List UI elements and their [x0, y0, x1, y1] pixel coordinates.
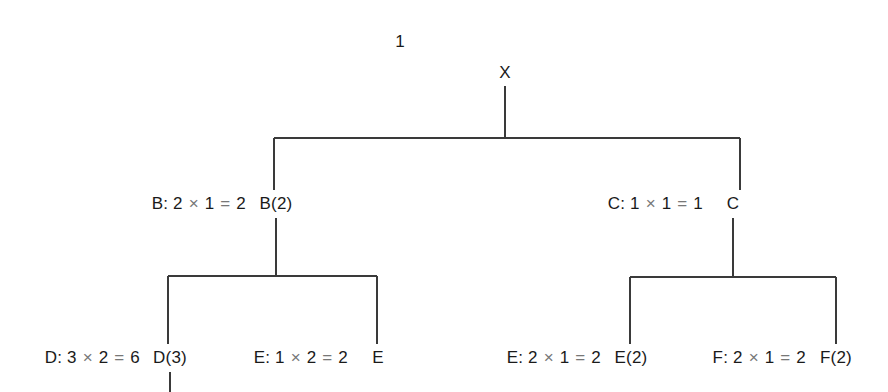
node-b: B(2)	[260, 194, 293, 214]
annotation-f: F: 2 × 1 = 2	[713, 348, 806, 368]
corner-annotation: 1	[395, 32, 404, 52]
node-c: C	[727, 194, 739, 214]
node-e-left: E	[372, 348, 384, 368]
diagram-canvas: 1 X B(2) C D(3) E E(2) F(2) B: 2 × 1 = 2…	[0, 0, 888, 392]
annotation-c: C: 1 × 1 = 1	[608, 194, 703, 214]
node-e-right: E(2)	[615, 348, 648, 368]
annotation-e-left: E: 1 × 2 = 2	[254, 348, 348, 368]
annotation-b: B: 2 × 1 = 2	[152, 194, 246, 214]
node-d: D(3)	[153, 348, 187, 368]
annotation-e-right: E: 2 × 1 = 2	[507, 348, 601, 368]
node-x: X	[499, 63, 511, 83]
annotation-d: D: 3 × 2 = 6	[45, 348, 140, 368]
tree-edges	[0, 0, 888, 392]
node-f: F(2)	[820, 348, 852, 368]
